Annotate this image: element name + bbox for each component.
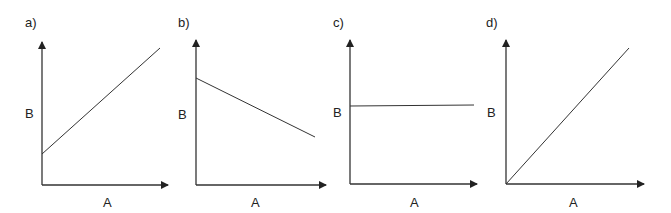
plot-line xyxy=(196,78,315,137)
panel-c: c) B A xyxy=(333,15,477,210)
y-axis-label: B xyxy=(25,106,34,121)
panel-label: b) xyxy=(178,15,190,30)
plot-line xyxy=(506,48,629,184)
panel-b: b) B A xyxy=(178,15,326,210)
panel-label: a) xyxy=(25,15,37,30)
x-axis-label: A xyxy=(103,195,112,210)
panel-d: d) B A xyxy=(486,15,644,210)
x-axis-label: A xyxy=(251,195,260,210)
panel-label: c) xyxy=(333,15,344,30)
panel-label: d) xyxy=(486,15,498,30)
plot-line xyxy=(350,105,474,106)
y-axis-label: B xyxy=(487,105,496,120)
plot-line xyxy=(42,48,160,154)
y-axis-label: B xyxy=(178,107,187,122)
x-axis-label: A xyxy=(410,195,419,210)
panel-a: a) B A xyxy=(25,15,168,210)
x-axis-label: A xyxy=(569,195,578,210)
diagram-canvas: a) B A b) B A c) B A d) B A xyxy=(0,0,671,213)
y-axis-label: B xyxy=(333,105,342,120)
